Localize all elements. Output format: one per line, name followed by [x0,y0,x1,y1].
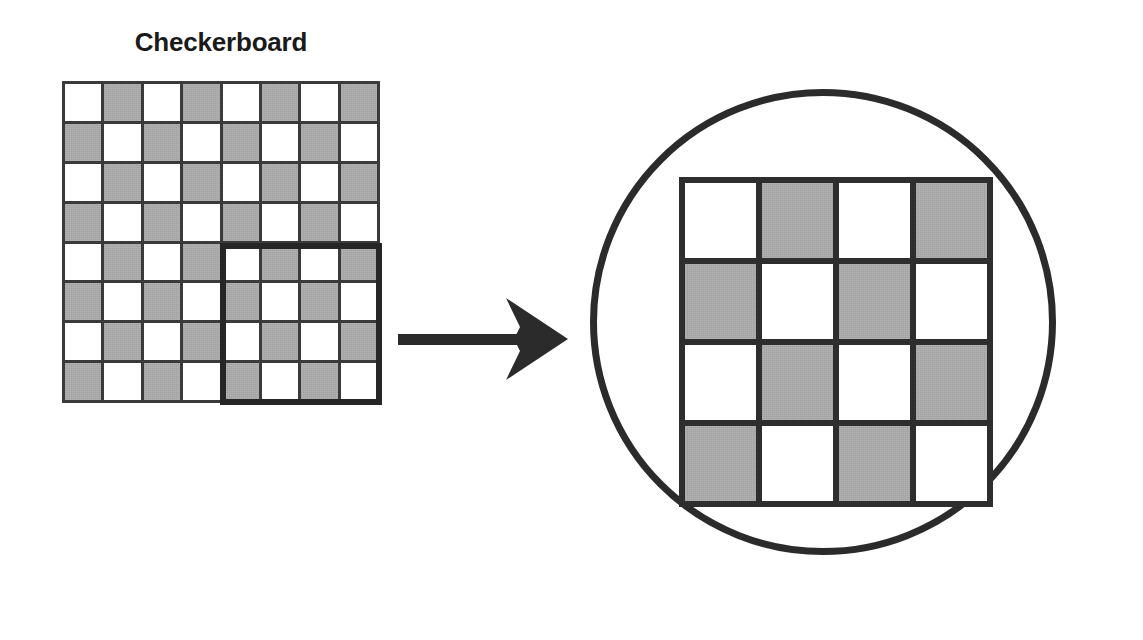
source-cell-r6-c1 [65,283,101,320]
source-cell-r4-c2 [104,204,140,241]
source-cell-r2-c8 [341,124,377,161]
source-cell-r1-c5 [223,84,259,121]
page-title: Checkerboard [62,29,380,55]
source-cell-r3-c7 [301,164,337,201]
source-cell-r4-c8 [341,204,377,241]
source-cell-r3-c2 [104,164,140,201]
source-cell-r7-c1 [65,323,101,360]
magnified-cell-r3-c3 [839,345,910,420]
source-cell-r3-c3 [144,164,180,201]
source-cell-r8-c6 [262,363,298,400]
magnified-cell-r2-c1 [685,264,756,339]
source-cell-r7-c7 [301,323,337,360]
source-cell-r7-c4 [183,323,219,360]
source-cell-r2-c1 [65,124,101,161]
source-cell-r4-c1 [65,204,101,241]
magnified-cell-r1-c4 [916,183,987,258]
magnified-cell-r2-c2 [762,264,833,339]
magnifier [590,89,1056,555]
source-cell-r1-c7 [301,84,337,121]
source-cell-r6-c6 [262,283,298,320]
source-cell-r1-c6 [262,84,298,121]
source-cell-r6-c7 [301,283,337,320]
source-cell-r5-c2 [104,244,140,281]
source-cell-r5-c8 [341,244,377,281]
source-cell-r1-c1 [65,84,101,121]
source-cell-r5-c3 [144,244,180,281]
source-cell-r8-c5 [223,363,259,400]
source-cell-r2-c2 [104,124,140,161]
source-cell-r4-c4 [183,204,219,241]
arrow-right-icon [396,296,572,382]
magnified-cell-r4-c3 [839,426,910,501]
source-cell-r4-c3 [144,204,180,241]
source-cell-r8-c7 [301,363,337,400]
magnified-cell-r1-c1 [685,183,756,258]
source-cell-r3-c6 [262,164,298,201]
magnified-cell-r4-c1 [685,426,756,501]
source-cell-r7-c5 [223,323,259,360]
source-cell-r5-c5 [223,244,259,281]
source-cell-r8-c1 [65,363,101,400]
source-cell-r2-c3 [144,124,180,161]
source-cell-r3-c4 [183,164,219,201]
source-cell-r2-c6 [262,124,298,161]
source-cell-r6-c8 [341,283,377,320]
magnified-cell-r2-c3 [839,264,910,339]
source-cell-r7-c2 [104,323,140,360]
source-cell-r2-c5 [223,124,259,161]
source-cell-r1-c4 [183,84,219,121]
source-cell-r5-c4 [183,244,219,281]
source-cell-r1-c2 [104,84,140,121]
source-cell-r6-c3 [144,283,180,320]
source-cell-r5-c1 [65,244,101,281]
source-cell-r4-c6 [262,204,298,241]
source-cell-r4-c7 [301,204,337,241]
source-cell-r4-c5 [223,204,259,241]
source-cell-r2-c7 [301,124,337,161]
source-cell-r3-c8 [341,164,377,201]
source-cell-r3-c1 [65,164,101,201]
source-cell-r6-c5 [223,283,259,320]
source-cell-r8-c4 [183,363,219,400]
magnified-cell-r3-c1 [685,345,756,420]
source-cell-r7-c8 [341,323,377,360]
source-cell-r8-c8 [341,363,377,400]
source-cell-r2-c4 [183,124,219,161]
source-cell-r3-c5 [223,164,259,201]
arrow-right-glyph [396,296,572,382]
magnified-cell-r4-c4 [916,426,987,501]
magnified-checkerboard [679,177,993,507]
source-cell-r8-c2 [104,363,140,400]
magnified-cell-r3-c4 [916,345,987,420]
magnified-cell-r1-c3 [839,183,910,258]
magnified-cell-r2-c4 [916,264,987,339]
checkerboard-figure: Checkerboard [0,0,1143,640]
source-cell-r6-c2 [104,283,140,320]
source-cell-r1-c3 [144,84,180,121]
source-cell-r7-c3 [144,323,180,360]
magnified-cell-r3-c2 [762,345,833,420]
source-cell-r1-c8 [341,84,377,121]
source-cell-r5-c7 [301,244,337,281]
source-checkerboard [62,81,380,403]
source-cell-r6-c4 [183,283,219,320]
source-cell-r7-c6 [262,323,298,360]
magnified-cell-r4-c2 [762,426,833,501]
magnified-cell-r1-c2 [762,183,833,258]
source-cell-r5-c6 [262,244,298,281]
source-cell-r8-c3 [144,363,180,400]
